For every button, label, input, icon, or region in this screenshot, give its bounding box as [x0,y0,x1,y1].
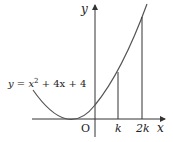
parabola-diagram: y x O k 2k y = x2 + 4x + 4 [0,0,173,142]
tick-2k-label: 2k [135,122,150,135]
origin-label: O [81,122,90,135]
parabola-curve [33,4,147,119]
y-axis-label: y [80,2,88,16]
tick-k-label: k [115,122,122,135]
curve-equation-label: y = x2 + 4x + 4 [7,77,86,89]
x-axis-label: x [157,121,164,135]
